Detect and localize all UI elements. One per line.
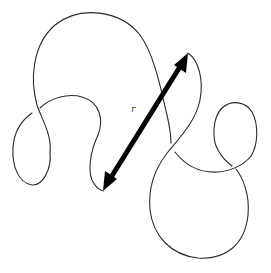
curve-middle-arch [40, 96, 103, 191]
diagram-canvas: r [0, 0, 271, 273]
knot-diagram: r [0, 0, 271, 273]
distance-label: r [131, 104, 136, 114]
end-to-end-arrow [103, 53, 188, 191]
curve-right-descent [150, 53, 249, 258]
curve-lower-sweep [175, 152, 251, 172]
curve-top-arc [33, 13, 171, 152]
